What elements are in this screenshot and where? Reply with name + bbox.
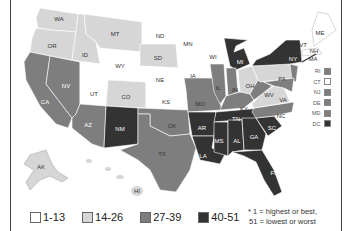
svg-text:NM: NM [115, 126, 124, 132]
state-ia [178, 58, 214, 78]
svg-text:NH: NH [310, 48, 319, 54]
legend-item-27-39: 27-39 [140, 211, 181, 223]
svg-text:NC: NC [277, 113, 286, 119]
svg-text:WV: WV [264, 92, 274, 98]
state-hi-island [116, 175, 124, 179]
svg-text:ID: ID [82, 52, 89, 58]
state-mi [224, 38, 250, 70]
svg-text:MA: MA [309, 56, 318, 62]
legend-swatch [30, 212, 41, 223]
svg-text:AR: AR [198, 125, 207, 131]
svg-text:NE: NE [156, 77, 164, 83]
svg-text:VA: VA [279, 97, 287, 103]
svg-text:LA: LA [199, 153, 206, 159]
svg-text:CO: CO [122, 94, 131, 100]
legend-swatch [140, 212, 151, 223]
svg-text:IA: IA [190, 73, 196, 79]
small-state-md: MD [312, 108, 331, 119]
legend-item-1-13: 1-13 [30, 211, 65, 223]
svg-text:PA: PA [278, 76, 286, 82]
footnote-line-2: 51 = lowest or worst [248, 217, 317, 227]
svg-text:UT: UT [90, 91, 98, 97]
svg-text:WI: WI [209, 54, 217, 60]
svg-text:AL: AL [233, 138, 241, 144]
svg-text:KY: KY [240, 106, 248, 112]
small-states-legend: RI CT NJ DE MD DC [312, 66, 331, 129]
svg-text:OR: OR [48, 43, 58, 49]
svg-text:TN: TN [232, 116, 240, 122]
state-ar [188, 112, 216, 136]
footnote-line-1: * 1 = highest or best, [248, 207, 317, 217]
us-choropleth-map: WA OR CA ID NV MT WY UT AZ CO NM ND SD N… [0, 0, 353, 231]
svg-text:SD: SD [154, 55, 163, 61]
svg-text:MT: MT [111, 31, 120, 37]
map-legend: 1-13 14-26 27-39 40-51 [30, 211, 239, 223]
svg-text:WA: WA [54, 16, 63, 22]
svg-text:AK: AK [37, 164, 45, 170]
svg-text:NV: NV [62, 83, 70, 89]
svg-text:AZ: AZ [84, 122, 92, 128]
svg-text:CA: CA [41, 99, 49, 105]
small-state-de: DE [312, 98, 331, 109]
svg-text:ND: ND [156, 33, 165, 39]
svg-text:TX: TX [158, 151, 166, 157]
legend-swatch [82, 212, 93, 223]
svg-text:NY: NY [289, 56, 297, 62]
svg-text:HI: HI [134, 188, 140, 194]
svg-text:ME: ME [316, 30, 325, 36]
svg-text:IN: IN [232, 87, 238, 93]
svg-text:OK: OK [168, 123, 177, 129]
svg-text:MN: MN [183, 41, 192, 47]
svg-text:IL: IL [215, 85, 221, 91]
legend-swatch [198, 212, 209, 223]
legend-item-40-51: 40-51 [198, 211, 239, 223]
small-state-nj: NJ [312, 87, 331, 98]
state-hi-island [105, 167, 111, 171]
small-state-dc: DC [312, 119, 331, 130]
state-hi-island [86, 159, 92, 163]
ranking-footnote: * 1 = highest or best, 51 = lowest or wo… [248, 207, 317, 227]
svg-text:OH: OH [246, 83, 255, 89]
svg-text:VT: VT [299, 42, 307, 48]
svg-text:MI: MI [237, 59, 244, 65]
svg-text:SC: SC [268, 125, 277, 131]
state-ny [252, 40, 302, 66]
state-ak [24, 150, 68, 190]
svg-text:KS: KS [162, 99, 170, 105]
small-state-ri: RI [312, 66, 331, 77]
svg-text:GA: GA [250, 134, 259, 140]
legend-item-14-26: 14-26 [82, 211, 123, 223]
svg-text:MS: MS [215, 138, 224, 144]
svg-text:FL: FL [270, 170, 278, 176]
state-me [312, 12, 336, 46]
small-state-ct: CT [312, 77, 331, 88]
svg-text:MO: MO [195, 101, 205, 107]
svg-text:WY: WY [115, 63, 125, 69]
